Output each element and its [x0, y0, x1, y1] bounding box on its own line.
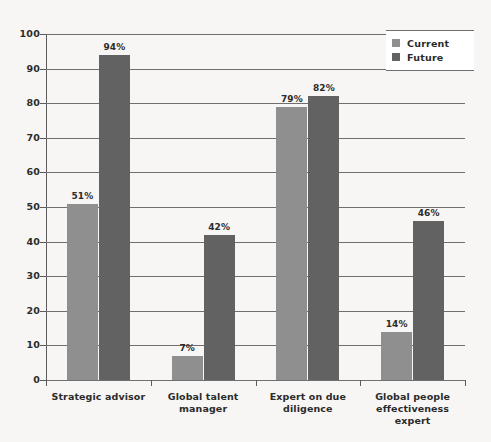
x-axis-tick [151, 380, 152, 386]
y-axis-tick-label: 10 [26, 339, 40, 350]
y-axis-tick [40, 138, 46, 139]
y-axis-tick [40, 172, 46, 173]
bar-value-label: 46% [407, 208, 450, 218]
bar-future [99, 55, 130, 380]
y-axis-tick-label: 100 [20, 28, 40, 39]
y-axis-tick [40, 276, 46, 277]
bar-current [172, 356, 203, 380]
bar-current [276, 107, 307, 380]
bar-future [308, 96, 339, 380]
bar-value-label: 42% [198, 222, 241, 232]
y-axis-tick-label: 50 [26, 201, 40, 212]
x-axis-category-label: Strategic advisor [46, 391, 151, 403]
bar-value-label: 7% [166, 343, 209, 353]
y-axis-tick [40, 311, 46, 312]
x-axis-end-tick [465, 380, 466, 386]
y-axis-tick-label: 90 [26, 63, 40, 74]
bar-future [413, 221, 444, 380]
y-axis-tick-label: 30 [26, 270, 40, 281]
x-axis-category-label: Global peopleeffectiveness expert [360, 391, 465, 427]
y-axis-tick [40, 69, 46, 70]
bar-current [67, 204, 98, 380]
y-axis-tick-label: 40 [26, 236, 40, 247]
x-axis-end-tick [46, 380, 47, 386]
y-axis-tick-label: 60 [26, 166, 40, 177]
y-axis-tick-label: 20 [26, 305, 40, 316]
legend-item-future: Future [392, 50, 468, 64]
legend-swatch-future-icon [392, 53, 400, 61]
x-axis-tick [256, 380, 257, 386]
y-axis-tick [40, 34, 46, 35]
bar-current [381, 332, 412, 380]
legend-label-current: Current [407, 38, 449, 49]
plot-area: 51%94%7%42%79%82%14%46% [46, 34, 465, 380]
y-axis-tick-label: 80 [26, 97, 40, 108]
bar-value-label: 51% [61, 191, 104, 201]
legend-label-future: Future [407, 52, 443, 63]
y-axis-tick [40, 207, 46, 208]
bar-value-label: 82% [302, 83, 345, 93]
bar-future [204, 235, 235, 380]
x-axis-category-label: Global talentmanager [151, 391, 256, 415]
chart-legend: Current Future [386, 30, 474, 71]
bar-value-label: 14% [375, 319, 418, 329]
bar-chart: 0102030405060708090100 51%94%7%42%79%82%… [0, 0, 491, 442]
y-axis-tick-label: 0 [33, 374, 40, 385]
y-axis-tick [40, 242, 46, 243]
bar-value-label: 94% [93, 42, 136, 52]
x-axis-category-label: Expert on duediligence [256, 391, 361, 415]
y-axis-tick-labels: 0102030405060708090100 [0, 34, 40, 381]
legend-item-current: Current [392, 36, 468, 50]
y-axis-tick [40, 345, 46, 346]
y-axis-tick-label: 70 [26, 132, 40, 143]
y-axis-tick [40, 103, 46, 104]
bar-value-label: 79% [270, 94, 313, 104]
legend-swatch-current-icon [392, 39, 400, 47]
x-axis-tick [360, 380, 361, 386]
